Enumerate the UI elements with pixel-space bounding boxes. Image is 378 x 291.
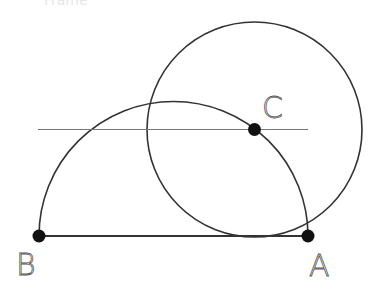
label-a: A xyxy=(309,248,330,283)
label-c: C xyxy=(262,90,283,125)
geometry-diagram: Frame B A C xyxy=(0,0,378,291)
point-a xyxy=(302,230,315,243)
point-b xyxy=(33,230,46,243)
label-b: B xyxy=(16,247,36,282)
point-c xyxy=(248,123,261,136)
top-partial-text: Frame xyxy=(44,0,88,8)
